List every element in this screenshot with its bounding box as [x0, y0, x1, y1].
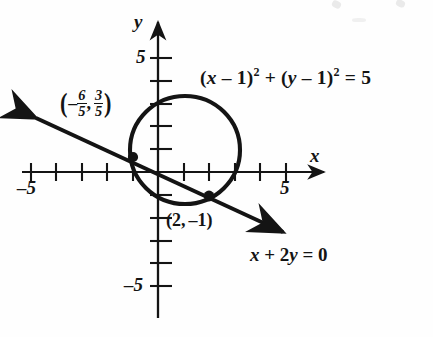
geometry-figure: y x 5 –5 –5 5 (x – 1)2 + (y – 1)2 = 5 (–…: [0, 0, 433, 337]
plot-canvas: [0, 0, 433, 337]
pt-close-paren: ): [207, 210, 213, 230]
circle-eq-p0: (: [200, 67, 207, 88]
y-tick-label-neg5: –5: [124, 275, 143, 294]
line-eq-p3: = 0: [298, 244, 328, 265]
circle-eq-p1: x: [207, 67, 217, 88]
point-label-integer: (2,–1): [166, 211, 213, 229]
line-eq-p0: x: [250, 244, 260, 265]
comma: ,: [87, 94, 92, 112]
circle-eq-p5: y: [288, 67, 297, 88]
x-fraction: 65: [77, 88, 86, 118]
x-axis: [22, 163, 324, 181]
x-denominator: 5: [77, 103, 86, 119]
circle-eq-p2: – 1): [217, 67, 254, 88]
y-axis-label: y: [134, 12, 142, 31]
circle-eq-p8: = 5: [340, 67, 371, 88]
open-paren: (: [60, 92, 67, 114]
line-eq-p2: y: [289, 244, 297, 265]
y-denominator: 5: [94, 103, 103, 119]
pt-x: 2: [172, 210, 181, 230]
x-tick-label-neg5: –5: [17, 178, 36, 197]
y-tick-label-5: 5: [136, 47, 146, 66]
x-sign: –: [68, 94, 77, 112]
pt-y: –1: [189, 210, 207, 230]
line-eq-p1: + 2: [260, 244, 290, 265]
close-paren: ): [104, 92, 111, 114]
x-tick-label-5: 5: [280, 178, 290, 197]
scan-artifact: [352, 18, 366, 22]
y-numerator: 3: [94, 88, 103, 103]
circle-eq-p4: + (: [260, 67, 288, 88]
circle-equation-label: (x – 1)2 + (y – 1)2 = 5: [200, 66, 371, 87]
x-numerator: 6: [77, 88, 86, 103]
circle-eq-p6: – 1): [297, 67, 334, 88]
y-fraction: 35: [94, 88, 103, 118]
intersection-point-2: [204, 191, 215, 202]
pt-comma: ,: [181, 210, 186, 230]
line-curve: [36, 118, 283, 232]
intersection-point-1: [128, 152, 138, 162]
x-axis-label: x: [310, 146, 320, 165]
line-equation-label: x + 2y = 0: [250, 245, 328, 264]
point-label-fraction: (–65,35): [59, 88, 113, 118]
